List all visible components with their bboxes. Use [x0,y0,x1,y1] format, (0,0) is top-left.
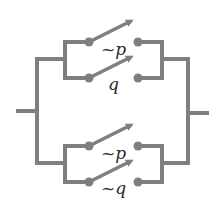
upper-block-right-wire [138,42,162,78]
contact-dot [134,142,143,151]
lower-block-right-wire [138,146,162,182]
switch-label-upper-1: ~p [101,41,126,58]
circuit-wires [0,0,223,198]
switch-label-lower-1: ~p [101,145,126,162]
contact-dot [85,142,94,151]
contact-dot [85,178,94,187]
switch-label-upper-2: q [108,76,119,93]
contact-dot [134,178,143,187]
lower-block-left-wire [65,146,89,182]
contact-dot [85,74,94,83]
switch-label-lower-2: ~q [101,180,126,197]
right-bus-wire [162,59,188,163]
contact-dot [134,74,143,83]
contact-dot [85,38,94,47]
contact-dot [134,38,143,47]
upper-block-left-wire [65,42,89,78]
left-bus-wire [37,59,65,163]
circuit-diagram: ~p q ~p ~q [0,0,223,198]
